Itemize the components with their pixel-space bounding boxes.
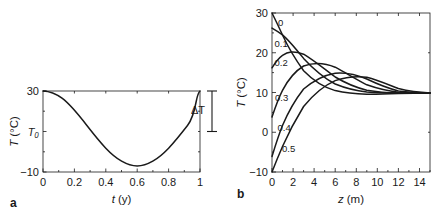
svg-text:T(°C): T(°C) — [8, 116, 20, 147]
panel-b-x-axis-label: z(m) — [337, 193, 364, 205]
panel-b-curve-t05 — [272, 77, 430, 172]
panel-b-curve-label-02: 0.2 — [275, 57, 288, 68]
panel-b-letter: b — [237, 187, 244, 201]
panel-b-xtick-2: 4 — [311, 176, 317, 188]
panel-a: 30 T₀ −10 0 0.2 0.4 0.6 0.8 1 T(°C) t(y) — [0, 0, 223, 214]
panel-b-ytick-3: 0 — [262, 126, 268, 138]
panel-b-y-axis-label: T(°C) — [235, 77, 247, 108]
panel-b: 0 0.1 0.2 0.3 0.4 0.5 30 20 10 0 −10 0 2… — [223, 0, 446, 214]
panel-a-ylabel-main: T — [8, 139, 20, 147]
panel-b-ytick-0: 30 — [256, 7, 268, 19]
panel-a-x-ticks — [43, 169, 200, 173]
figure-container: 30 T₀ −10 0 0.2 0.4 0.6 0.8 1 T(°C) t(y) — [0, 0, 446, 214]
panel-a-xlabel-main: t — [112, 193, 116, 205]
panel-a-xlabel-unit: (y) — [118, 193, 132, 205]
panel-a-xtick-2: 0.4 — [98, 176, 113, 188]
panel-a-xtick-3: 0.6 — [130, 176, 145, 188]
panel-a-svg: 30 T₀ −10 0 0.2 0.4 0.6 0.8 1 T(°C) t(y) — [0, 0, 223, 214]
panel-b-ytick-2: 10 — [256, 87, 268, 99]
panel-a-delta-t-label: ΔT — [191, 104, 205, 116]
panel-b-xlabel-main: z — [337, 193, 344, 205]
panel-b-xtick-1: 2 — [290, 176, 296, 188]
panel-a-ytick-1: T₀ — [28, 126, 40, 138]
panel-b-xtick-4: 8 — [353, 176, 359, 188]
panel-b-curve-label-05: 0.5 — [282, 143, 295, 154]
panel-b-curve-t0 — [272, 13, 430, 94]
panel-b-xtick-0: 0 — [269, 176, 275, 188]
panel-b-ylabel-unit: (°C) — [235, 77, 247, 98]
panel-b-svg: 0 0.1 0.2 0.3 0.4 0.5 30 20 10 0 −10 0 2… — [223, 0, 446, 214]
panel-a-x-axis-label: t(y) — [112, 193, 132, 205]
panel-b-xlabel-unit: (m) — [347, 193, 364, 205]
panel-a-ylabel-unit: (°C) — [8, 116, 20, 137]
panel-b-top-ticks — [293, 13, 419, 16]
panel-b-ytick-4: −10 — [249, 166, 268, 178]
panel-b-xtick-3: 6 — [332, 176, 338, 188]
panel-a-ytick-2: −10 — [20, 166, 39, 178]
panel-a-ytick-0: 30 — [27, 85, 39, 97]
panel-a-xtick-4: 0.8 — [161, 176, 176, 188]
panel-b-ytick-1: 20 — [256, 47, 268, 59]
panel-a-letter: a — [10, 196, 17, 210]
panel-a-xtick-5: 1 — [197, 176, 203, 188]
panel-a-y-ticks — [43, 91, 47, 172]
panel-b-curve-t01 — [272, 28, 430, 93]
panel-b-curve-label-04: 0.4 — [278, 122, 291, 133]
panel-a-temperature-curve — [43, 91, 200, 166]
panel-a-y-axis-label: T(°C) — [8, 116, 20, 147]
panel-b-curve-label-01: 0.1 — [275, 38, 288, 49]
panel-a-xtick-0: 0 — [40, 176, 46, 188]
panel-b-xtick-7: 14 — [413, 176, 425, 188]
svg-text:T(°C): T(°C) — [235, 77, 247, 108]
panel-b-xtick-5: 10 — [371, 176, 383, 188]
panel-b-curve-label-03: 0.3 — [275, 92, 288, 103]
panel-b-xtick-6: 12 — [392, 176, 404, 188]
panel-a-plot-frame — [43, 91, 200, 172]
panel-b-x-ticks — [272, 168, 430, 172]
panel-b-curve-label-0: 0 — [278, 17, 283, 28]
panel-a-xtick-1: 0.2 — [67, 176, 82, 188]
panel-b-ylabel-main: T — [235, 100, 247, 108]
panel-a-delta-t-bracket — [207, 91, 217, 132]
